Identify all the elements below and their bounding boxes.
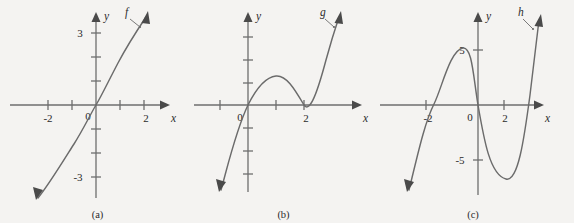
panel-c: -2 2 5 -5 0 x y h (c) <box>372 0 574 223</box>
y-tick-label-a--3: -3 <box>73 171 83 183</box>
panel-b: 2 0 x y g (b) <box>186 0 381 223</box>
y-axis-arrow-b <box>244 12 253 22</box>
panel-caption-b: (b) <box>186 209 381 220</box>
x-tick-label-c-2: 2 <box>502 112 508 124</box>
curve-label-h: h <box>518 6 524 18</box>
panel-caption-a: (a) <box>0 209 195 220</box>
plot-b: 2 0 x y g <box>186 0 381 205</box>
panel-caption-c: (c) <box>372 209 574 220</box>
y-axis-arrow-c <box>474 12 483 22</box>
y-axis-label-b: y <box>255 10 262 23</box>
curve-h-leader <box>523 19 533 29</box>
y-axis-arrow-a <box>92 12 101 22</box>
origin-label-c: 0 <box>467 111 473 123</box>
curve-h-arrow-top <box>535 14 544 27</box>
curve-g-leader <box>325 19 334 27</box>
y-axis-label-a: y <box>103 10 110 23</box>
curve-label-f: f <box>125 6 130 19</box>
y-tick-label-a-3: 3 <box>77 27 83 39</box>
x-axis-label-b: x <box>362 112 369 124</box>
x-axis-label-a: x <box>170 112 177 124</box>
curve-f <box>38 17 146 198</box>
curve-f-leader <box>130 19 140 27</box>
curve-g <box>221 17 339 190</box>
curve-h-leader-dot <box>532 28 534 30</box>
x-axis-arrow-b <box>352 101 362 110</box>
x-tick-label-b-2: 2 <box>303 112 309 124</box>
curve-g-leader-dot <box>333 26 335 28</box>
x-tick-label-a-2: 2 <box>143 112 149 124</box>
x-axis-arrow-a <box>160 101 170 110</box>
curve-f-arrow-top <box>142 11 151 24</box>
curve-f-leader-dot <box>139 26 141 28</box>
y-axis-label-c: y <box>485 10 492 23</box>
curve-label-g: g <box>320 6 326 19</box>
curve-g-arrow-top <box>335 11 344 24</box>
panel-a: -2 2 3 -3 0 x y f (a) <box>0 0 195 223</box>
y-tick-label-c-5: 5 <box>459 44 465 56</box>
figure-container: -2 2 3 -3 0 x y f (a) <box>0 0 574 223</box>
x-axis-arrow-c <box>534 101 544 110</box>
plot-c: -2 2 5 -5 0 x y h <box>372 0 574 205</box>
x-tick-label-a--2: -2 <box>43 112 52 124</box>
x-axis-label-c: x <box>544 112 551 124</box>
plot-a: -2 2 3 -3 0 x y f <box>0 0 195 205</box>
y-tick-label-c--5: -5 <box>455 154 465 166</box>
